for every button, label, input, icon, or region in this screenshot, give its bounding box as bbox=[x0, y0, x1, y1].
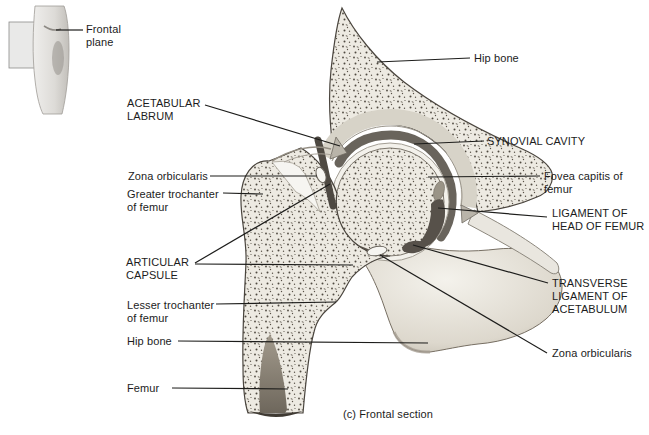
label-hip-bone-lower: Hip bone bbox=[127, 335, 172, 348]
label-acetabular-labrum: ACETABULAR LABRUM bbox=[127, 97, 201, 123]
label-frontal-plane: Frontal plane bbox=[86, 23, 121, 49]
figure-hip-joint-frontal-section: Frontal plane ACETABULAR LABRUM Hip bone… bbox=[0, 0, 649, 435]
leader-acetabular-labrum bbox=[205, 105, 340, 146]
label-zona-orbicularis-right: Zona orbicularis bbox=[552, 347, 632, 360]
inset-thigh-shadow bbox=[52, 41, 64, 75]
hip-joint-section bbox=[241, 8, 562, 417]
label-transverse-ligament: TRANSVERSE LIGAMENT OF ACETABULUM bbox=[552, 277, 628, 316]
label-hip-bone-top: Hip bone bbox=[474, 52, 519, 65]
figure-caption: (c) Frontal section bbox=[343, 408, 433, 420]
label-lesser-trochanter: Lesser trochanter of femur bbox=[127, 299, 214, 325]
label-articular-capsule: ARTICULAR CAPSULE bbox=[126, 256, 189, 282]
label-synovial-cavity: SYNOVIAL CAVITY bbox=[487, 135, 585, 148]
orientation-inset bbox=[9, 6, 69, 114]
label-greater-trochanter: Greater trochanter of femur bbox=[127, 188, 219, 214]
label-ligament-of-head: LIGAMENT OF HEAD OF FEMUR bbox=[552, 207, 644, 233]
label-fovea-capitis: Fovea capitis of femur bbox=[544, 170, 623, 196]
label-zona-orbicularis-left: Zona orbicularis bbox=[128, 170, 208, 183]
label-femur: Femur bbox=[127, 382, 159, 395]
leader-hip-bone-top bbox=[377, 58, 470, 62]
